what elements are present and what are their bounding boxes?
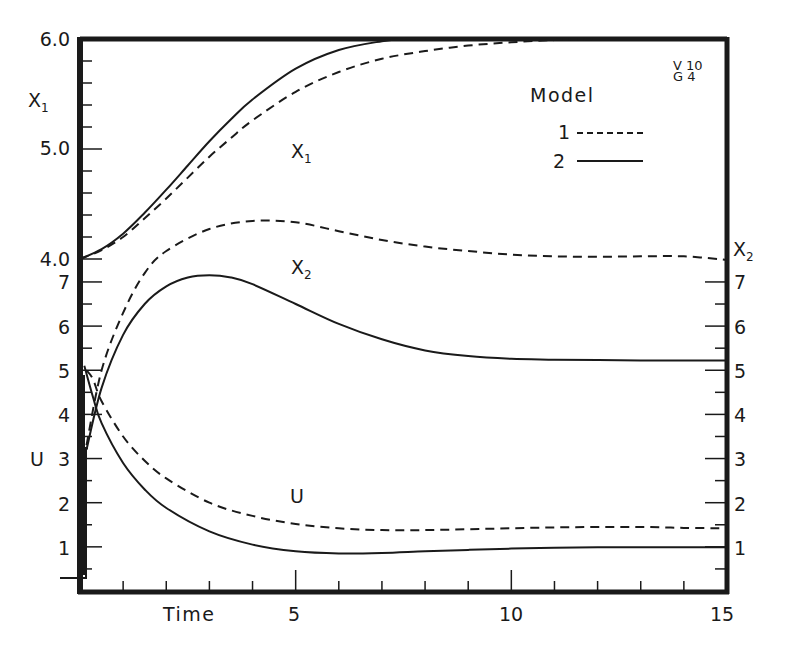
left-tick-4: 4 bbox=[58, 404, 70, 426]
x1-axis-title: X1 bbox=[28, 89, 49, 115]
x1-axis: 6.0 5.0 4.0 X1 bbox=[28, 28, 70, 270]
left-tick-7: 7 bbox=[58, 271, 70, 293]
series-u-model-1 bbox=[87, 370, 728, 530]
legend-label-1: 1 bbox=[558, 121, 570, 143]
u-axis-title: U bbox=[30, 448, 44, 470]
right-tick-1: 1 bbox=[734, 537, 746, 559]
code-g: G 4 bbox=[673, 69, 695, 84]
left-tick-3: 3 bbox=[58, 448, 70, 470]
left-tick-5: 5 bbox=[58, 360, 70, 382]
legend: Model 1 2 bbox=[530, 84, 643, 172]
x-axis: Time 5 10 15 bbox=[162, 603, 734, 625]
left-tick-1: 1 bbox=[58, 537, 70, 559]
x-tick-15: 15 bbox=[710, 603, 734, 625]
right-tick-3: 3 bbox=[734, 448, 746, 470]
plot-frame bbox=[78, 37, 729, 594]
x1-tick-4.0: 4.0 bbox=[40, 248, 70, 270]
series-x2-model-1 bbox=[87, 220, 728, 445]
axis-ticks bbox=[80, 39, 727, 592]
right-tick-5: 5 bbox=[734, 360, 746, 382]
curve-labels: X1 X2 U bbox=[290, 140, 312, 507]
x1-tick-5.0: 5.0 bbox=[40, 137, 70, 159]
series-x2-model-2 bbox=[87, 275, 728, 449]
left-tick-2: 2 bbox=[58, 493, 70, 515]
right-tick-4: 4 bbox=[734, 404, 746, 426]
x-tick-5: 5 bbox=[288, 603, 300, 625]
series-u-model-2 bbox=[84, 366, 727, 554]
right-tick-6: 6 bbox=[734, 316, 746, 338]
x1-tick-6.0: 6.0 bbox=[40, 28, 70, 50]
x-tick-10: 10 bbox=[499, 603, 523, 625]
curve-label-u: U bbox=[290, 485, 304, 507]
right-tick-2: 2 bbox=[734, 493, 746, 515]
legend-title: Model bbox=[530, 84, 595, 106]
x-axis-title: Time bbox=[162, 603, 216, 625]
right-tick-7: 7 bbox=[734, 271, 746, 293]
left-tick-6: 6 bbox=[58, 316, 70, 338]
series-x1-model-2 bbox=[80, 39, 425, 259]
legend-label-2: 2 bbox=[553, 150, 565, 172]
chart-canvas: 6.0 5.0 4.0 X1 7 6 5 4 3 2 1 U X2 7 6 5 … bbox=[0, 0, 787, 655]
curve-label-x1: X1 bbox=[291, 140, 312, 166]
x2-axis-title: X2 bbox=[733, 238, 754, 264]
series-x1-model-1 bbox=[80, 39, 598, 259]
right-axis: X2 7 6 5 4 3 2 1 bbox=[733, 238, 754, 559]
left-lower-axis: 7 6 5 4 3 2 1 U bbox=[30, 271, 70, 559]
curve-label-x2: X2 bbox=[291, 256, 312, 282]
data-series bbox=[80, 39, 727, 554]
figure-code: V 10 G 4 bbox=[673, 58, 703, 84]
